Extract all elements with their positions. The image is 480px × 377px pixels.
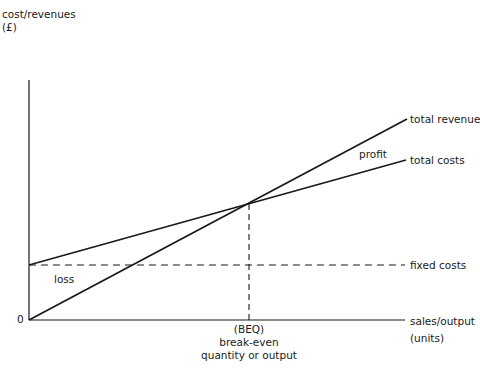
origin-label: 0 [17, 313, 24, 326]
loss-label: loss [54, 273, 74, 286]
y-axis-label-line1: cost/revenues [2, 8, 76, 21]
x-axis-label-line2: (units) [410, 330, 475, 347]
beq-label: (BEQ) [189, 323, 309, 336]
break-even-text: break-even [189, 336, 309, 349]
y-axis-label-line2: (£) [2, 21, 76, 34]
profit-label: profit [359, 148, 387, 161]
fixed-costs-label: fixed costs [410, 259, 466, 272]
break-even-label: (BEQ) break-even quantity or output [189, 323, 309, 362]
total-costs-label: total costs [410, 154, 465, 167]
total-revenue-label: total revenue [410, 113, 480, 126]
total-revenue-line [29, 119, 407, 320]
x-axis-label-line1: sales/output [410, 313, 475, 330]
y-axis-label: cost/revenues (£) [2, 8, 76, 34]
quantity-or-output-text: quantity or output [189, 349, 309, 362]
x-axis-label: sales/output (units) [410, 313, 475, 347]
total-costs-line [29, 160, 406, 265]
